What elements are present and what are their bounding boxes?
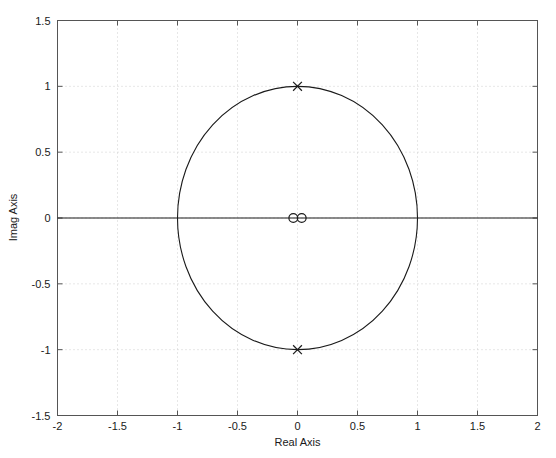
figure-background xyxy=(0,0,556,458)
plot-canvas: -2-1.5-1-0.500.511.52-1.5-1-0.500.511.5 … xyxy=(0,0,556,458)
y-tick-label: 1.5 xyxy=(35,15,50,27)
x-tick-label: 0 xyxy=(294,420,300,432)
x-tick-label: 1.5 xyxy=(470,420,485,432)
y-tick-label: 0 xyxy=(44,212,50,224)
x-tick-label: 2 xyxy=(534,420,540,432)
y-tick-label: 1 xyxy=(44,80,50,92)
y-tick-label: 0.5 xyxy=(35,146,50,158)
y-tick-label: -1 xyxy=(41,344,51,356)
x-tick-label: 0.5 xyxy=(350,420,365,432)
x-tick-label: -2 xyxy=(53,420,63,432)
y-axis-label: Imag Axis xyxy=(7,193,19,241)
x-tick-label: -0.5 xyxy=(228,420,247,432)
x-axis-label: Real Axis xyxy=(275,436,321,448)
x-tick-label: -1 xyxy=(173,420,183,432)
x-tick-label: 1 xyxy=(414,420,420,432)
pole-zero-plot-figure: -2-1.5-1-0.500.511.52-1.5-1-0.500.511.5 … xyxy=(0,0,556,458)
x-tick-label: -1.5 xyxy=(108,420,127,432)
y-tick-label: -1.5 xyxy=(32,410,51,422)
y-tick-label: -0.5 xyxy=(32,278,51,290)
